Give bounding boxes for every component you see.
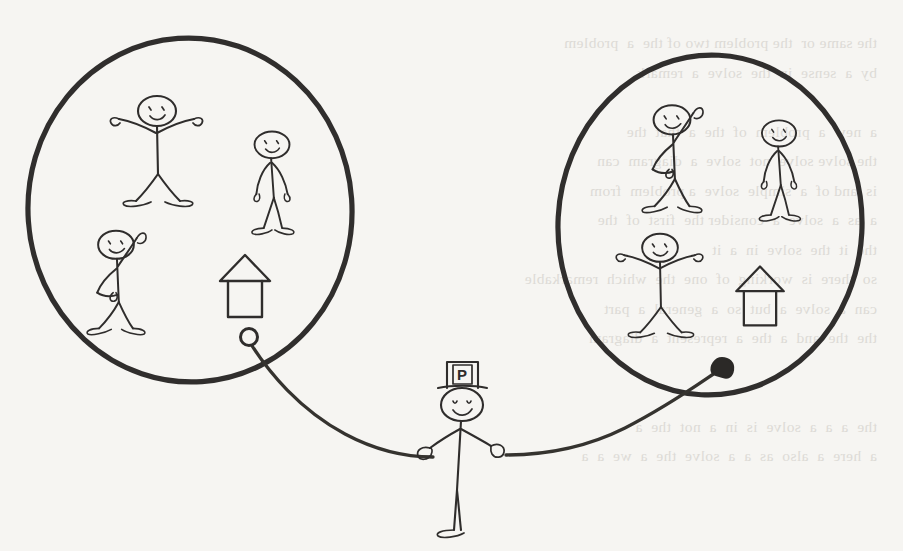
broker-figure[interactable] <box>418 362 504 537</box>
right-group[interactable] <box>549 47 870 402</box>
right-figure-arms-out[interactable] <box>616 234 703 338</box>
left-group-outline <box>16 27 363 393</box>
linking-curve[interactable] <box>241 329 734 458</box>
connector-right-segment[interactable] <box>506 369 721 455</box>
connector-filled-endpoint[interactable] <box>712 358 734 378</box>
right-house-icon[interactable] <box>736 267 784 326</box>
connector-hollow-endpoint[interactable] <box>241 329 258 346</box>
left-house-icon[interactable] <box>220 255 270 317</box>
right-figure-waving[interactable] <box>642 105 703 212</box>
left-group[interactable] <box>16 27 363 393</box>
right-figure-standing[interactable] <box>759 120 800 221</box>
right-group-outline <box>549 47 870 402</box>
diagram-canvas: the same or the problem two of the a pro… <box>0 0 903 551</box>
left-figure-standing[interactable] <box>252 132 294 235</box>
left-figure-arms-out[interactable] <box>110 96 202 206</box>
left-figure-waving[interactable] <box>87 231 146 335</box>
diagram-svg: P <box>0 0 903 551</box>
